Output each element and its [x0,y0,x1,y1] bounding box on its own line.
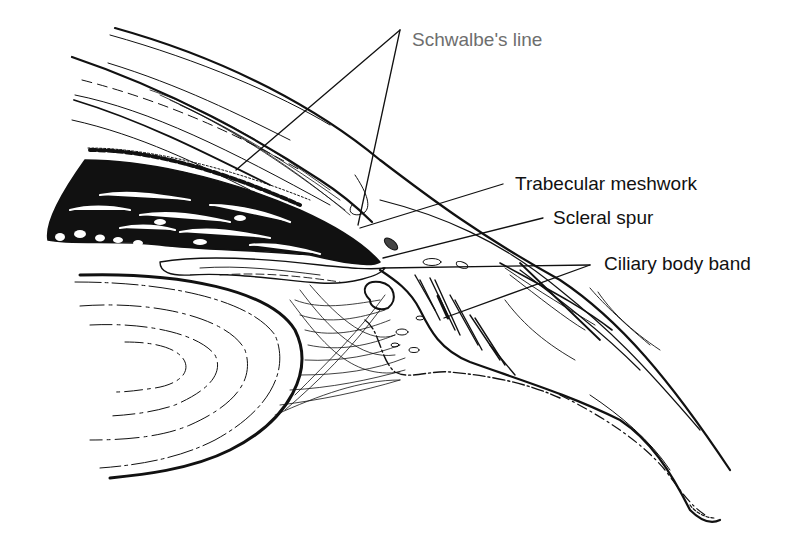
label-schwalbes-line: Schwalbe's line [412,30,542,49]
label-trabecular-meshwork: Trabecular meshwork [515,174,697,193]
lens [75,275,302,478]
anatomy-illustration [0,0,803,548]
leader-line-ciliary-body-band [383,265,590,268]
iris-root [48,148,385,283]
label-scleral-spur: Scleral spur [553,208,653,227]
leader-line-trabecular-meshwork [360,184,503,228]
zonular-fibers [275,285,405,415]
cornea-layers [72,28,730,470]
leader-line-schwalbes-line [236,30,400,170]
ciliary-body [365,236,720,522]
leader-line-scleral-spur [383,218,543,258]
eye-angle-diagram: Schwalbe's line Trabecular meshwork Scle… [0,0,803,548]
label-ciliary-body-band: Ciliary body band [604,254,751,273]
leader-line-schwalbes-line [358,30,400,225]
